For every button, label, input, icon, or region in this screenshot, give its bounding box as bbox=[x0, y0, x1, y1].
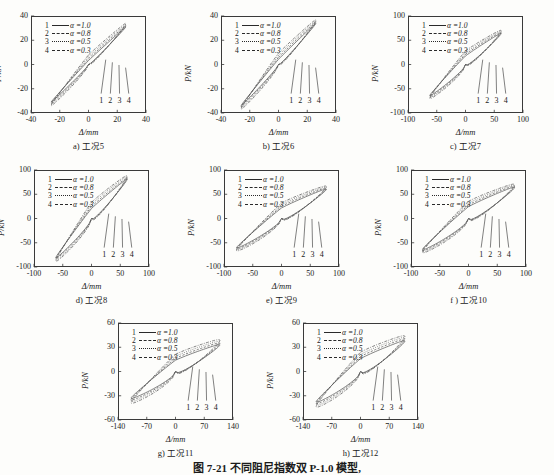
pointer-leader-line bbox=[373, 367, 378, 401]
y-axis-label: P/kN bbox=[265, 372, 275, 389]
legend-line-swatch bbox=[324, 357, 341, 358]
legend-item: 4α =0.3 bbox=[316, 354, 363, 362]
legend-label: α =0.3 bbox=[342, 354, 363, 362]
pointer-leader-line bbox=[382, 369, 384, 400]
legend-line-swatch bbox=[324, 332, 341, 334]
subplot-caption: h) 工况12 bbox=[283, 446, 438, 458]
pointer-leader-line bbox=[398, 375, 401, 401]
legend: 1α =1.02α =0.83α =0.54α =0.3 bbox=[316, 329, 363, 362]
figure-caption: 图 7-21 不同阻尼指数双 P-1.0 模型, bbox=[0, 459, 554, 475]
x-axis-label: Δ/mm bbox=[303, 434, 418, 444]
legend-number: 4 bbox=[316, 354, 322, 362]
legend-line-swatch bbox=[324, 348, 341, 350]
pointer-leader-line bbox=[391, 372, 392, 401]
legend-line-swatch bbox=[324, 340, 341, 342]
